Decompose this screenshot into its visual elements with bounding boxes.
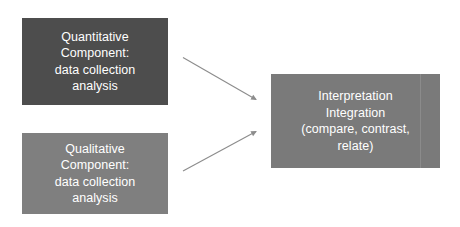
interpretation-line-1: Interpretation: [318, 88, 392, 105]
qualitative-line-2: Component:: [61, 157, 130, 174]
qualitative-line-3: data collection: [55, 174, 136, 191]
qualitative-component-box: Qualitative Component: data collection a…: [22, 133, 168, 214]
quantitative-line-4: analysis: [72, 78, 118, 95]
quantitative-line-1: Quantitative: [61, 29, 128, 46]
qualitative-line-4: analysis: [72, 190, 118, 207]
quantitative-line-2: Component:: [61, 45, 130, 62]
interpretation-line-4: relate): [338, 138, 374, 155]
interpretation-integration-box: Interpretation Integration (compare, con…: [271, 74, 440, 168]
interpretation-line-2: Integration: [326, 105, 386, 122]
qualitative-line-1: Qualitative: [65, 141, 125, 158]
arrow-qualitative-to-interpretation: [183, 132, 256, 172]
box-seam-line: [420, 74, 421, 168]
interpretation-line-3: (compare, contrast,: [301, 121, 410, 138]
diagram-canvas: Quantitative Component: data collection …: [0, 0, 460, 227]
quantitative-line-3: data collection: [55, 62, 136, 79]
quantitative-component-box: Quantitative Component: data collection …: [22, 18, 168, 105]
arrow-quantitative-to-interpretation: [183, 58, 256, 100]
